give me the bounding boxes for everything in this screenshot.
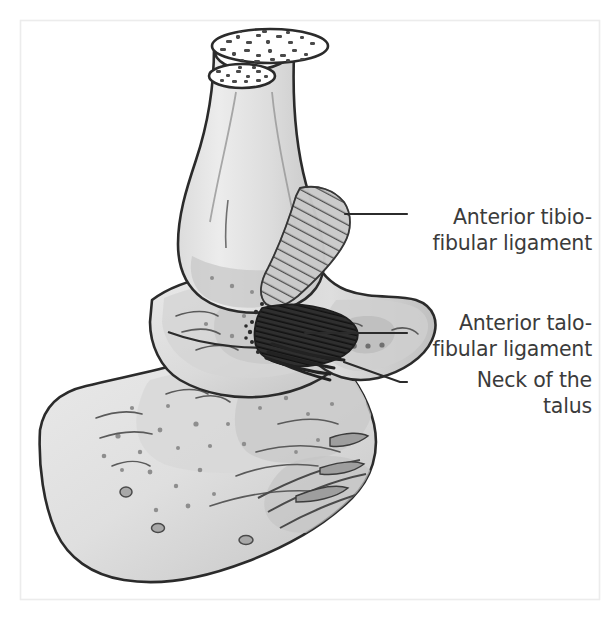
label-neck-of-the-talus-line1: Neck of the [477,368,592,392]
label-anterior-tibiofibular-ligament-line1: Anterior tibio- [453,205,592,229]
label-anterior-talofibular-ligament-line1: Anterior talo- [459,311,592,335]
label-anterior-talofibular-ligament-line2: fibular ligament [433,337,593,361]
label-anterior-tibiofibular-ligament-line2: fibular ligament [433,231,593,255]
label-neck-of-the-talus-line2: talus [543,394,592,418]
figure-canvas: Anterior tibio- fibular ligament Anterio… [0,0,615,623]
ankle-anatomy-illustration: Anterior tibio- fibular ligament Anterio… [0,0,615,623]
